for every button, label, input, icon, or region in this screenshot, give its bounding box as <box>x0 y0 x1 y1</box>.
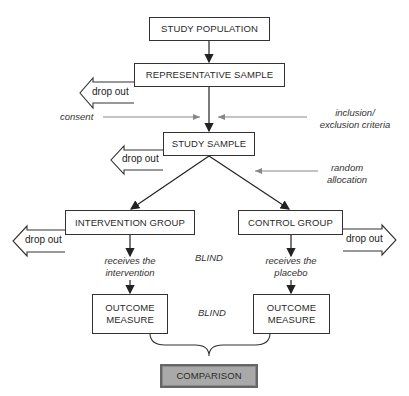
study-population-label: STUDY POPULATION <box>161 23 258 35</box>
receives-placebo-label: receives the placebo <box>256 255 326 279</box>
dropout-representative: drop out <box>92 86 129 97</box>
outcome-right-line2: MEASURE <box>268 314 316 326</box>
outcome-measure-intervention-box: OUTCOME MEASURE <box>92 294 168 334</box>
intervention-group-label: INTERVENTION GROUP <box>75 217 185 229</box>
outcome-measure-control-box: OUTCOME MEASURE <box>253 294 330 334</box>
representative-sample-box: REPRESENTATIVE SAMPLE <box>134 63 285 87</box>
blind-label-1: BLIND <box>195 252 223 264</box>
representative-sample-label: REPRESENTATIVE SAMPLE <box>146 69 273 81</box>
study-sample-label: STUDY SAMPLE <box>172 138 246 150</box>
outcome-right-line1: OUTCOME <box>267 302 316 314</box>
receives-placebo-line1: receives the <box>256 255 326 267</box>
intervention-group-box: INTERVENTION GROUP <box>65 210 195 235</box>
dropout-control: drop out <box>346 233 383 244</box>
blind-label-2: BLIND <box>198 307 226 319</box>
random-line1: random <box>312 162 382 174</box>
comparison-label: COMPARISON <box>176 370 241 382</box>
comparison-box: COMPARISON <box>160 364 258 388</box>
random-line2: allocation <box>312 174 382 186</box>
dropout-study-sample: drop out <box>122 153 159 164</box>
inclusion-exclusion-label: inclusion/ exclusion criteria <box>305 107 405 131</box>
receives-intervention-line1: receives the <box>95 255 165 267</box>
dropout-intervention: drop out <box>25 234 62 245</box>
inclusion-line2: exclusion criteria <box>305 119 405 131</box>
connector-lines <box>0 0 409 396</box>
outcome-left-line2: MEASURE <box>106 314 154 326</box>
control-group-label: CONTROL GROUP <box>248 217 333 229</box>
inclusion-line1: inclusion/ <box>305 107 405 119</box>
receives-intervention-label: receives the intervention <box>95 255 165 279</box>
random-allocation-label: random allocation <box>312 162 382 186</box>
study-population-box: STUDY POPULATION <box>149 17 270 41</box>
study-sample-box: STUDY SAMPLE <box>163 132 255 156</box>
outcome-left-line1: OUTCOME <box>105 302 154 314</box>
receives-intervention-line2: intervention <box>95 267 165 279</box>
receives-placebo-line2: placebo <box>256 267 326 279</box>
consent-label: consent <box>60 111 93 123</box>
control-group-box: CONTROL GROUP <box>238 210 343 235</box>
